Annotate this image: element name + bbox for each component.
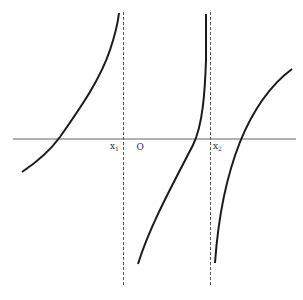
function-graph: x1 x2 O xyxy=(0,0,303,300)
label-origin: O xyxy=(137,142,144,152)
curve-left-branch xyxy=(22,13,119,172)
label-x2: x2 xyxy=(213,141,222,152)
curve-right-branch xyxy=(215,69,292,263)
label-x1: x1 xyxy=(110,141,119,152)
